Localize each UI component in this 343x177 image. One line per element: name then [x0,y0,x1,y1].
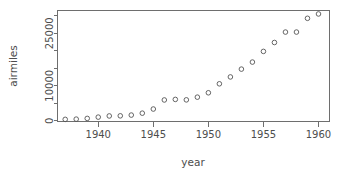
data-point [228,75,233,80]
data-point [151,107,156,112]
data-point [206,90,211,95]
x-tick-label: 1960 [306,129,331,140]
data-point [96,115,101,120]
y-tick-label: 10000 [44,70,55,102]
data-point [261,49,266,54]
x-axis-ticks [98,122,318,127]
y-axis-title: airmiles [7,45,19,86]
plot-canvas: 01000025000 19401945195019551960 airmile… [0,0,343,177]
data-point [217,82,222,87]
data-point [129,113,134,118]
y-axis-tick-labels: 01000025000 [44,17,55,124]
data-point [316,12,321,17]
data-point [283,30,288,35]
data-point [162,98,167,103]
data-point [107,114,112,119]
airmiles-scatter-figure: 01000025000 19401945195019551960 airmile… [0,0,343,177]
plot-panel-box [58,11,330,122]
data-point [140,111,145,116]
y-tick-label: 0 [44,118,55,124]
data-point [184,98,189,103]
x-tick-label: 1945 [141,129,166,140]
data-point [272,40,277,45]
data-point [85,116,90,121]
x-axis-title: year [181,156,205,168]
data-point [173,97,178,102]
y-tick-label: 25000 [44,17,55,49]
data-point [239,67,244,72]
data-point-group [63,12,321,122]
x-axis-tick-labels: 19401945195019551960 [86,129,332,140]
data-point [305,16,310,21]
data-point [195,95,200,100]
data-point [294,30,299,35]
data-point [118,114,123,119]
data-point [74,117,79,122]
data-point [250,60,255,65]
x-tick-label: 1955 [251,129,276,140]
x-tick-label: 1940 [86,129,111,140]
x-tick-label: 1950 [196,129,221,140]
